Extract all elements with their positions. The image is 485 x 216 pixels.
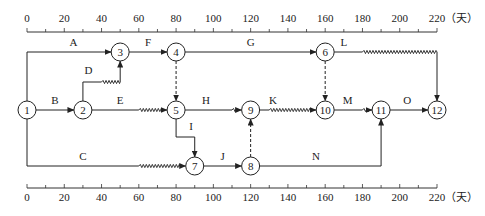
activity-label-M: M — [343, 94, 353, 106]
activity-label-B: B — [51, 94, 58, 106]
node-label: 5 — [173, 104, 179, 116]
node-8: 8 — [242, 157, 260, 175]
diagram-canvas: 020406080100120140160180200220（天） 020406… — [0, 0, 485, 216]
node-9: 9 — [242, 101, 260, 119]
activity-label-J: J — [221, 150, 226, 162]
free-float-wave — [232, 108, 238, 111]
activity-label-G: G — [247, 36, 255, 48]
activity-label-K: K — [269, 94, 277, 106]
axis-tick-label: 40 — [96, 191, 108, 203]
node-7: 7 — [186, 157, 204, 175]
node-label: 3 — [117, 46, 123, 58]
free-float-wave — [269, 108, 312, 111]
axis-tick-label: 160 — [317, 12, 334, 24]
axis-tick-label: 140 — [280, 12, 297, 24]
axis-tick-label: 60 — [133, 12, 145, 24]
axis-tick-label: 100 — [205, 12, 222, 24]
node-label: 8 — [248, 160, 254, 172]
node-label: 2 — [80, 104, 86, 116]
activity-label-D: D — [85, 64, 93, 76]
axis-tick-label: 200 — [391, 191, 408, 203]
axis-tick-label: 40 — [96, 12, 108, 24]
node-label: 9 — [248, 104, 254, 116]
axis-tick-label: 60 — [133, 191, 145, 203]
axis-tick-label: 120 — [242, 191, 259, 203]
activity-label-O: O — [403, 94, 411, 106]
axis-tick-label: 220 — [429, 12, 446, 24]
axis-tick-label: 220 — [429, 191, 446, 203]
bottom-time-axis: 020406080100120140160180200220（天） — [24, 184, 478, 203]
axis-tick-label: 180 — [354, 191, 371, 203]
activity-line — [260, 119, 381, 166]
free-float-wave — [362, 108, 369, 111]
node-label: 10 — [320, 104, 332, 116]
node-label: 11 — [376, 104, 387, 116]
activity-line — [83, 82, 102, 101]
node-6: 6 — [316, 43, 334, 61]
axis-tick-label: 20 — [59, 191, 71, 203]
top-time-axis: 020406080100120140160180200220（天） — [24, 12, 478, 32]
axis-tick-label: 80 — [171, 12, 183, 24]
node-label: 1 — [24, 104, 30, 116]
free-float-wave — [362, 50, 437, 53]
network-diagram: 020406080100120140160180200220（天） 020406… — [0, 0, 485, 216]
node-5: 5 — [167, 101, 185, 119]
activity-label-H: H — [202, 94, 210, 106]
node-1: 1 — [18, 101, 36, 119]
node-4: 4 — [167, 43, 185, 61]
node-3: 3 — [111, 43, 129, 61]
axis-tick-label: 100 — [205, 191, 222, 203]
axis-tick-label: 120 — [242, 12, 259, 24]
activity-label-C: C — [79, 150, 86, 162]
axis-tick-label: 160 — [317, 191, 334, 203]
axis-tick-label: 140 — [280, 191, 297, 203]
free-float-wave — [102, 80, 121, 83]
axis-tick-label: 180 — [354, 12, 371, 24]
axis-tick-label: 0 — [24, 191, 30, 203]
free-float-wave — [139, 108, 162, 111]
node-10: 10 — [316, 101, 334, 119]
axis-unit-label: （天） — [445, 191, 478, 203]
activity-label-F: F — [145, 36, 151, 48]
node-11: 11 — [372, 101, 390, 119]
activity-line — [27, 52, 111, 101]
node-12: 12 — [428, 101, 446, 119]
axis-unit-label: （天） — [445, 12, 478, 24]
activity-label-E: E — [117, 94, 124, 106]
activity-label-I: I — [189, 120, 193, 132]
node-label: 12 — [432, 104, 443, 116]
axis-tick-label: 20 — [59, 12, 71, 24]
node-label: 4 — [173, 46, 179, 58]
axis-tick-label: 200 — [391, 12, 408, 24]
free-float-wave — [139, 164, 180, 167]
node-label: 7 — [192, 160, 198, 172]
axis-tick-label: 0 — [24, 12, 30, 24]
activity-arrows: ABCDEFGLHIJKMON — [27, 36, 437, 168]
activity-label-A: A — [70, 36, 78, 48]
node-label: 6 — [322, 46, 328, 58]
activity-label-N: N — [312, 150, 320, 162]
activity-label-L: L — [340, 36, 347, 48]
axis-tick-label: 80 — [171, 191, 183, 203]
node-2: 2 — [74, 101, 92, 119]
